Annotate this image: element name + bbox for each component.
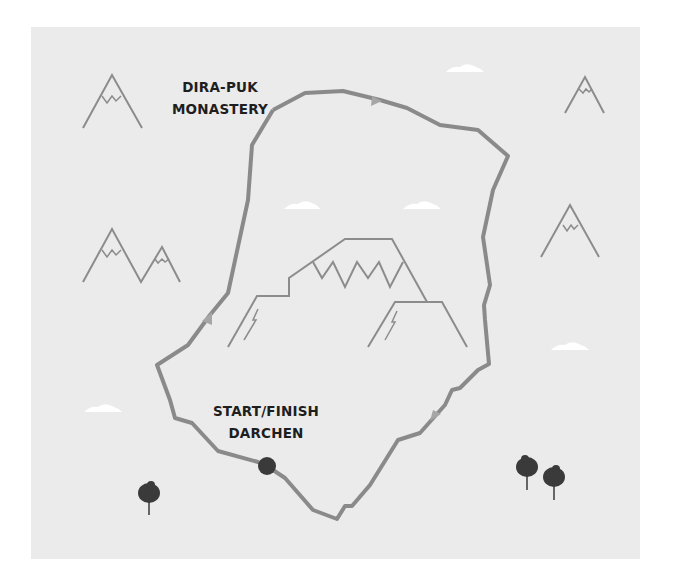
map-illustration [0,0,677,584]
start-label-line1: START/FINISH [200,400,332,422]
mountain-icon [565,77,604,113]
tree-icon [138,481,160,515]
cloud-icon [403,201,441,209]
start-label-line2: DARCHEN [200,422,332,444]
monastery-label-line2: MONASTERY [160,98,280,120]
tree-icon [516,455,538,490]
central-mountain-icon [228,239,467,347]
mountain-icon [83,229,180,282]
direction-arrows [202,96,441,421]
cloud-icon [84,404,122,412]
kora-route [157,91,508,519]
cloud-icon [284,201,320,209]
monastery-label: DIRA-PUK MONASTERY [160,76,280,120]
mountain-icon [541,205,599,257]
start-finish-marker[interactable] [258,457,276,475]
cloud-icon [446,64,484,72]
mountain-icon [83,75,142,128]
tree-icon [543,465,565,500]
monastery-label-line1: DIRA-PUK [160,76,280,98]
start-finish-label: START/FINISH DARCHEN [200,400,332,444]
cloud-icon [551,342,589,350]
